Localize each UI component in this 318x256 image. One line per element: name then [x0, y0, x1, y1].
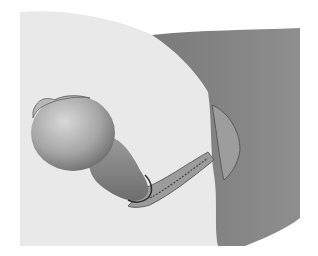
anatomical-illustration	[0, 0, 318, 256]
